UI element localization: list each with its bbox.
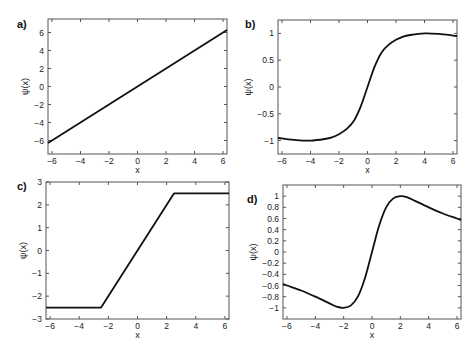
y-tick-label: 6: [39, 28, 44, 38]
panel-label-b: b): [245, 18, 256, 30]
y-tick-label: 0: [274, 247, 279, 257]
y-tick-label: −3: [32, 314, 42, 324]
y-tick-label: 0: [37, 246, 42, 256]
x-tick-label: 2: [164, 156, 169, 166]
x-tick-label: −6: [282, 321, 292, 331]
x-tick-label: −4: [310, 321, 320, 331]
x-tick-label: 4: [422, 156, 427, 166]
x-tick-label: −6: [45, 321, 55, 331]
axes-c: −6−4−20246−3−2−10123xψ(x): [18, 177, 229, 340]
y-tick-label: 1: [269, 28, 274, 38]
x-tick-label: −2: [334, 156, 344, 166]
x-tick-label: −6: [277, 156, 287, 166]
y-tick-label: −1: [32, 268, 42, 278]
y-tick-label: −0.5: [257, 109, 274, 119]
x-tick-label: −2: [104, 321, 114, 331]
x-tick-label: −4: [74, 321, 84, 331]
y-tick-label: 0.5: [262, 55, 274, 65]
panel-b: b) −6−4−20246−1−0.500.51xψ(x): [243, 18, 457, 175]
panel-label-a: a): [17, 18, 27, 30]
x-axis-label: x: [135, 330, 140, 340]
panel-c: c) −6−4−20246−3−2−10123xψ(x): [17, 177, 229, 340]
x-tick-label: −2: [339, 321, 349, 331]
y-tick-label: −1: [269, 303, 279, 313]
y-tick-label: 2: [37, 200, 42, 210]
x-tick-label: 6: [221, 156, 226, 166]
axes-d: −6−4−20246−1−0.8−0.6−0.4−0.200.20.40.60.…: [248, 185, 461, 340]
axes-b: −6−4−20246−1−0.500.51xψ(x): [243, 20, 457, 175]
x-tick-label: 2: [164, 321, 169, 331]
y-tick-label: 3: [37, 177, 42, 187]
x-tick-label: 6: [223, 321, 228, 331]
y-tick-label: −0.4: [262, 269, 279, 279]
y-tick-label: 0.4: [267, 225, 279, 235]
x-axis-label: x: [365, 165, 370, 175]
y-tick-label: 4: [39, 46, 44, 56]
y-tick-label: −1: [264, 136, 274, 146]
y-tick-label: −4: [34, 118, 44, 128]
y-tick-label: 2: [39, 64, 44, 74]
y-tick-label: 0: [269, 82, 274, 92]
psi-curve: [46, 193, 229, 307]
x-tick-label: 2: [398, 321, 403, 331]
y-axis-label: ψ(x): [243, 79, 253, 96]
x-tick-label: 6: [455, 321, 460, 331]
psi-curve: [283, 196, 461, 308]
y-tick-label: 0.6: [267, 214, 279, 224]
y-tick-label: −0.2: [262, 258, 279, 268]
y-tick-label: −2: [32, 291, 42, 301]
x-tick-label: −2: [104, 156, 114, 166]
psi-curve: [278, 33, 457, 140]
x-tick-label: 2: [394, 156, 399, 166]
panel-label-d: d): [247, 193, 258, 205]
panel-a: a) −6−4−20246−6−4−20246xψ(x): [17, 18, 227, 175]
axes-a: −6−4−20246−6−4−20246xψ(x): [20, 19, 227, 175]
y-axis-label: ψ(x): [248, 244, 258, 261]
x-tick-label: −4: [76, 156, 86, 166]
x-tick-label: 6: [451, 156, 456, 166]
x-tick-label: −4: [306, 156, 316, 166]
y-tick-label: 0.8: [267, 202, 279, 212]
x-tick-label: 4: [426, 321, 431, 331]
y-tick-label: 1: [37, 223, 42, 233]
panel-d: d) −6−4−20246−1−0.8−0.6−0.4−0.200.20.40.…: [247, 185, 461, 340]
figure-four-psi-panels: a) −6−4−20246−6−4−20246xψ(x) b) −6−4−202…: [0, 0, 475, 351]
y-tick-label: −0.8: [262, 292, 279, 302]
y-tick-label: 0.2: [267, 236, 279, 246]
x-axis-label: x: [135, 165, 140, 175]
x-tick-label: −6: [47, 156, 57, 166]
y-axis-label: ψ(x): [20, 78, 30, 95]
y-axis-label: ψ(x): [18, 242, 28, 259]
x-axis-label: x: [370, 330, 375, 340]
x-tick-label: 4: [192, 156, 197, 166]
psi-curve: [48, 30, 227, 143]
y-tick-label: 0: [39, 82, 44, 92]
y-tick-label: −0.6: [262, 281, 279, 291]
panel-label-c: c): [17, 180, 27, 192]
y-tick-label: −6: [34, 136, 44, 146]
x-tick-label: 4: [193, 321, 198, 331]
y-tick-label: −2: [34, 100, 44, 110]
y-tick-label: 1: [274, 191, 279, 201]
